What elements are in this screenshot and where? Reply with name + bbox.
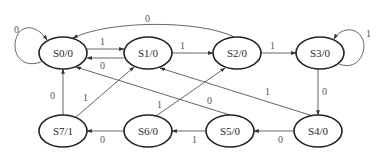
state-label-s3: S3/0 xyxy=(310,47,331,59)
edge-s2-s0 xyxy=(73,24,234,38)
edge-label-s2-s0: 0 xyxy=(145,13,150,24)
state-node-s3: S3/0 xyxy=(296,37,344,69)
state-label-s6: S6/0 xyxy=(138,125,159,137)
state-node-s0: S0/0 xyxy=(39,37,87,69)
edge-s4-s1 xyxy=(160,68,313,116)
edge-label-s5-s0: 0 xyxy=(207,95,212,106)
edge-label-s4-s5: 0 xyxy=(278,134,283,145)
state-node-s6: S6/0 xyxy=(124,115,172,147)
state-node-s1: S1/0 xyxy=(124,37,172,69)
edge-label-s7-s1: 1 xyxy=(83,92,88,103)
edge-label-s0-s1: 1 xyxy=(100,36,105,47)
state-label-s7: S7/1 xyxy=(53,125,73,137)
edge-label-s3-s4: 0 xyxy=(322,86,327,97)
state-diagram: 0 1 0 1 0 1 1 0 0 1 1 0 xyxy=(0,0,385,159)
state-label-s0: S0/0 xyxy=(53,47,74,59)
state-label-s2: S2/0 xyxy=(227,47,248,59)
edge-label-s6-s2: 1 xyxy=(157,99,162,110)
edge-label-s2-s3: 1 xyxy=(270,40,275,51)
edge-label-s4-s1: 1 xyxy=(265,86,270,97)
edge-label-s7-s0: 0 xyxy=(50,90,55,101)
edge-label-s3-s3: 1 xyxy=(366,28,371,39)
state-node-s7: S7/1 xyxy=(39,115,87,147)
state-label-s4: S4/0 xyxy=(308,125,329,137)
edge-label-s5-s6: 1 xyxy=(192,134,197,145)
state-node-s2: S2/0 xyxy=(213,37,261,69)
edge-label-s1-s0: 0 xyxy=(100,60,105,71)
state-node-s4: S4/0 xyxy=(294,115,342,147)
state-node-s5: S5/0 xyxy=(206,115,254,147)
state-label-s1: S1/0 xyxy=(138,47,159,59)
state-label-s5: S5/0 xyxy=(220,125,241,137)
edge-label-s1-s2: 1 xyxy=(180,40,185,51)
edge-label-s0-s0: 0 xyxy=(14,24,19,35)
edge-s6-s2 xyxy=(156,68,225,116)
edge-s5-s0 xyxy=(76,67,230,115)
edge-label-s6-s7: 0 xyxy=(100,134,105,145)
